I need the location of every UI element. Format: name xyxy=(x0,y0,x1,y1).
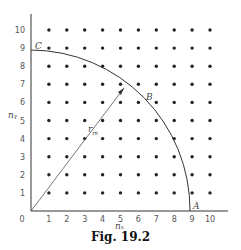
y-tick-label: 9 xyxy=(20,44,25,53)
lattice-point xyxy=(155,46,158,49)
lattice-point xyxy=(173,173,176,176)
lattice-point xyxy=(83,155,86,158)
lattice-point xyxy=(65,65,68,68)
lattice-point xyxy=(173,46,176,49)
radius-arrow xyxy=(31,88,124,211)
lattice-point xyxy=(137,46,140,49)
lattice-point xyxy=(119,155,122,158)
y-tick-label: 2 xyxy=(20,171,25,180)
lattice-point xyxy=(47,46,50,49)
lattice-point xyxy=(119,119,122,122)
lattice-point xyxy=(83,46,86,49)
y-tick-label: 4 xyxy=(20,135,25,144)
lattice-point xyxy=(119,101,122,104)
lattice-point xyxy=(173,119,176,122)
lattice-point xyxy=(155,83,158,86)
y-tick-label: 7 xyxy=(20,80,25,89)
x-tick-label: 4 xyxy=(100,215,105,224)
x-tick-label: 10 xyxy=(205,215,215,224)
y-tick-label: 10 xyxy=(15,26,25,35)
lattice-point xyxy=(47,101,50,104)
quarter-circle-arc xyxy=(31,50,190,211)
x-tick-label: 1 xyxy=(46,215,51,224)
lattice-point xyxy=(101,101,104,104)
lattice-point xyxy=(119,173,122,176)
lattice-point xyxy=(47,119,50,122)
lattice-point xyxy=(190,101,193,104)
lattice-point xyxy=(137,119,140,122)
lattice-point xyxy=(190,28,193,31)
lattice-point xyxy=(137,65,140,68)
lattice-point xyxy=(83,101,86,104)
lattice-point xyxy=(83,28,86,31)
lattice-point xyxy=(101,119,104,122)
lattice-point xyxy=(65,137,68,140)
lattice-point xyxy=(155,173,158,176)
lattice-point xyxy=(101,191,104,194)
x-tick-label: 8 xyxy=(172,215,177,224)
lattice-point xyxy=(119,46,122,49)
lattice-point xyxy=(137,137,140,140)
lattice-point xyxy=(119,191,122,194)
lattice-point xyxy=(173,65,176,68)
lattice-point xyxy=(190,137,193,140)
lattice-point xyxy=(47,155,50,158)
lattice-points xyxy=(47,28,212,194)
lattice-point xyxy=(208,137,211,140)
lattice-point xyxy=(137,28,140,31)
lattice-point xyxy=(47,137,50,140)
y-tick-label: 8 xyxy=(20,62,25,71)
lattice-point xyxy=(208,155,211,158)
lattice-point xyxy=(65,173,68,176)
lattice-point xyxy=(208,83,211,86)
lattice-point xyxy=(65,83,68,86)
y-tick-label: 3 xyxy=(20,153,25,162)
lattice-point xyxy=(101,83,104,86)
x-tick-label: 3 xyxy=(82,215,87,224)
lattice-point xyxy=(137,191,140,194)
lattice-point xyxy=(119,137,122,140)
lattice-point xyxy=(101,28,104,31)
lattice-point xyxy=(190,65,193,68)
lattice-point xyxy=(119,65,122,68)
lattice-point xyxy=(173,83,176,86)
lattice-point xyxy=(190,46,193,49)
lattice-point xyxy=(190,173,193,176)
y-axis-label: nᵧ xyxy=(8,110,18,120)
axis-ticks: 01234567891012345678910 xyxy=(15,26,215,224)
lattice-point xyxy=(208,46,211,49)
lattice-point xyxy=(208,173,211,176)
lattice-point xyxy=(173,28,176,31)
lattice-point xyxy=(155,119,158,122)
lattice-point xyxy=(83,119,86,122)
lattice-point xyxy=(155,155,158,158)
point-label-b: B xyxy=(145,92,153,102)
lattice-point xyxy=(47,173,50,176)
lattice-point xyxy=(101,173,104,176)
lattice-point xyxy=(155,65,158,68)
lattice-point xyxy=(119,83,122,86)
lattice-point xyxy=(101,137,104,140)
lattice-point xyxy=(101,155,104,158)
x-tick-label: 7 xyxy=(154,215,159,224)
lattice-point xyxy=(208,101,211,104)
lattice-point xyxy=(208,65,211,68)
lattice-point xyxy=(83,173,86,176)
lattice-point xyxy=(173,155,176,158)
point-label-c: C xyxy=(35,41,42,51)
lattice-point xyxy=(155,191,158,194)
lattice-point xyxy=(173,101,176,104)
lattice-point xyxy=(119,28,122,31)
y-tick-label: 5 xyxy=(20,117,25,126)
x-tick-label: 2 xyxy=(64,215,69,224)
lattice-point xyxy=(137,155,140,158)
lattice-point xyxy=(137,83,140,86)
lattice-point xyxy=(83,65,86,68)
figure-caption: Fig. 19.2 xyxy=(0,230,241,244)
y-tick-label: 6 xyxy=(20,98,25,107)
lattice-point xyxy=(155,28,158,31)
lattice-point xyxy=(155,101,158,104)
lattice-point xyxy=(65,46,68,49)
lattice-point xyxy=(65,191,68,194)
lattice-point xyxy=(173,191,176,194)
